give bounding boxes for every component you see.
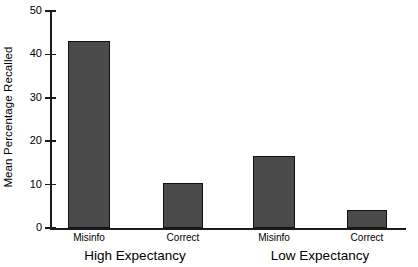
x-axis-group-label: High Expectancy (50, 248, 220, 264)
bar (163, 183, 203, 228)
x-axis-category-label: Misinfo (49, 232, 129, 244)
x-axis-category-label: Correct (143, 232, 223, 244)
bar (68, 41, 110, 228)
x-axis-group-label: Low Expectancy (235, 248, 405, 264)
bar (347, 210, 387, 228)
x-axis-category-label: Correct (327, 232, 407, 244)
bar-chart-figure: Mean Percentage Recalled 01020304050 Mis… (0, 0, 418, 267)
x-axis-line (50, 228, 406, 230)
bar (253, 156, 295, 228)
x-axis-category-label: Misinfo (234, 232, 314, 244)
bar-series (0, 0, 418, 228)
